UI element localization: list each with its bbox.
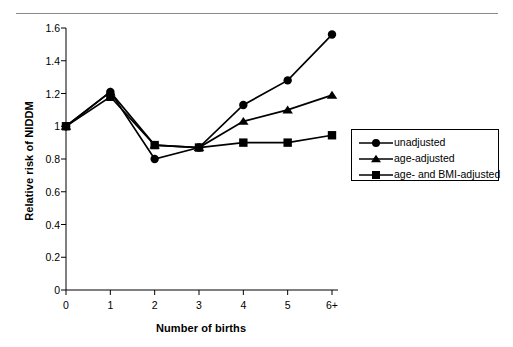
legend-label: unadjusted [394, 137, 445, 148]
series-2 [62, 93, 336, 152]
data-point-marker [150, 141, 158, 149]
legend-item-1: age-adjusted [358, 150, 455, 167]
data-point-marker [327, 91, 338, 99]
data-point-marker [106, 93, 114, 101]
legend-label: age- and BMI-adjusted [394, 169, 500, 180]
legend-marker-square-icon [358, 168, 394, 182]
data-point-marker [372, 171, 380, 179]
legend-item-0: unadjusted [358, 134, 445, 151]
axis-tick-marks [61, 28, 332, 295]
data-series-layer [61, 30, 338, 163]
data-point-marker [372, 139, 380, 147]
axis-lines [66, 28, 338, 290]
data-point-marker [283, 138, 291, 146]
legend-item-2: age- and BMI-adjusted [358, 166, 500, 183]
series-line [66, 97, 332, 148]
data-point-marker [328, 30, 336, 38]
data-point-marker [239, 138, 247, 146]
chart-figure: Relative risk of NIDDM Number of births … [0, 0, 513, 347]
data-point-marker [283, 76, 291, 84]
legend-marker-circle-icon [358, 136, 394, 150]
data-point-marker [150, 155, 158, 163]
data-point-marker [62, 122, 70, 130]
legend-marker-triangle-icon [358, 152, 394, 166]
data-point-marker [328, 131, 336, 139]
legend-label: age-adjusted [394, 153, 455, 164]
series-line [66, 35, 332, 159]
data-point-marker [195, 143, 203, 151]
data-point-marker [239, 101, 247, 109]
chart-legend: unadjustedage-adjustedage- and BMI-adjus… [351, 129, 499, 181]
